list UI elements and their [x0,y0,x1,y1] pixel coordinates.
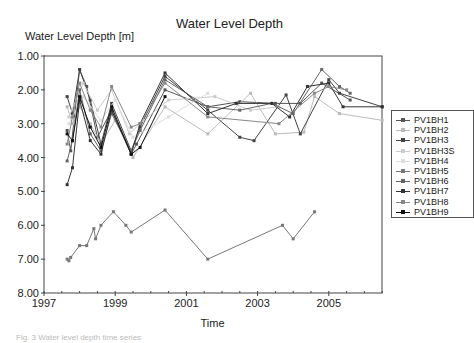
data-point [381,105,384,108]
data-point [306,85,309,88]
data-point [206,258,209,261]
legend-item: PV1BH2 [396,125,449,135]
data-point [164,95,167,98]
data-point [206,115,209,118]
data-point [164,209,167,212]
data-point [313,95,316,98]
data-point [206,92,209,95]
series-line [67,73,382,185]
legend-label: PV1BH1 [414,115,449,125]
series-pv1bh1 [66,68,352,156]
data-point [345,88,348,91]
legend-item: PV1BH6 [396,176,449,186]
y-tick-label: 2.00 [18,84,39,96]
data-point [270,102,273,105]
legend-label: PV1BH8 [414,197,449,207]
legend-swatch-icon [396,197,410,207]
data-point [66,159,69,162]
legend-label: PV1BH2 [414,125,449,135]
data-point [99,153,102,156]
data-point [235,102,238,105]
data-point [124,224,127,227]
data-point [89,139,92,142]
data-point [99,146,102,149]
y-tick-label: 5.00 [18,185,39,197]
legend-label: PV1BH7 [414,186,449,196]
data-point [71,115,74,118]
data-point [67,259,70,262]
data-point [132,156,135,159]
y-tick-label: 1.00 [18,50,39,62]
data-point [338,85,341,88]
y-tick-label: 4.00 [18,152,39,164]
legend-item: PV1BH9 [396,207,449,217]
data-point [164,71,167,74]
data-point [92,227,95,230]
data-point [94,237,97,240]
legend-swatch-icon [396,156,410,166]
legend-item: PV1BH5 [396,166,449,176]
data-point [130,126,133,129]
data-point [139,146,142,149]
data-point [139,122,142,125]
data-point [114,99,117,102]
data-point [135,143,138,146]
data-point [302,131,305,134]
data-point [164,78,167,81]
data-point [313,92,316,95]
legend-swatch-icon [396,166,410,176]
y-tick-label: 6.00 [18,219,39,231]
plot-frame [44,56,382,293]
data-point [66,132,69,135]
legend-item: PV1BH1 [396,115,449,125]
x-tick-label: 1997 [32,297,56,309]
legend-swatch-icon [396,115,410,125]
data-point [213,95,216,98]
data-point [82,82,85,85]
legend-item: PV1BH7 [396,186,449,196]
data-point [132,136,135,139]
data-point [164,88,167,91]
data-point [206,112,209,115]
data-point [99,126,102,129]
series-pv1bh5 [66,209,316,263]
data-point [89,109,92,112]
legend-item: PV1BH4 [396,156,449,166]
legend-label: PV1BH5 [414,166,449,176]
data-point [277,122,280,125]
data-point [327,85,330,88]
data-point [78,95,81,98]
data-point [349,92,352,95]
x-tick-label: 1999 [103,297,127,309]
data-point [139,129,142,132]
data-point [342,105,345,108]
data-point [89,126,92,129]
legend-item: PV1BH3S [396,146,455,156]
data-point [206,109,209,112]
data-point [338,112,341,115]
series-line [67,93,382,157]
data-point [110,105,113,108]
data-point [69,256,72,259]
legend-swatch-icon [396,125,410,135]
data-point [66,183,69,186]
data-point [292,237,295,240]
data-point [320,68,323,71]
legend-label: PV1BH6 [414,176,449,186]
data-point [327,78,330,81]
data-point [327,82,330,85]
legend: PV1BH1PV1BH2PV1BH3PV1BH3SPV1BH4PV1BH5PV1… [391,110,474,218]
x-tick-label: 2001 [174,297,198,309]
data-point [285,93,288,96]
data-point [130,153,133,156]
data-point [274,132,277,135]
data-point [66,105,69,108]
data-point [99,224,102,227]
data-point [249,109,252,112]
legend-label: PV1BH3 [414,135,449,145]
data-point [67,115,70,118]
y-tick-label: 3.00 [18,118,39,130]
data-point [313,210,316,213]
legend-item: PV1BH8 [396,197,449,207]
data-point [110,85,113,88]
